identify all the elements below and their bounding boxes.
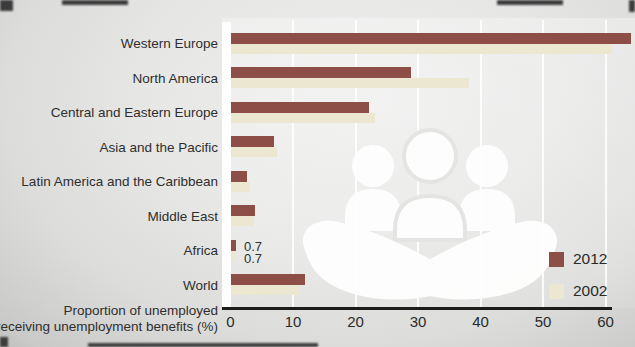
photo-artifact (0, 337, 8, 347)
legend-item-2002: 2002 (549, 282, 607, 300)
photo-artifact (629, 0, 635, 12)
x-tick-label: 60 (584, 313, 628, 330)
category-label: Central and Eastern Europe (0, 104, 218, 122)
x-tick-label: 50 (521, 313, 565, 330)
category-label: Western Europe (0, 35, 218, 53)
legend-label-2002: 2002 (573, 282, 607, 300)
category-label: World (0, 277, 218, 295)
bar-2012 (231, 136, 274, 147)
gridline (355, 20, 357, 307)
chart-page: Western EuropeNorth AmericaCentral and E… (0, 0, 635, 347)
photo-artifact (88, 343, 318, 347)
people-in-hands-watermark (295, 122, 565, 317)
gridline (480, 20, 482, 307)
category-label: Asia and the Pacific (0, 139, 218, 157)
bar-2002 (231, 251, 236, 261)
legend-swatch-2002 (549, 284, 564, 299)
photo-artifact (0, 0, 13, 11)
bar-2012 (231, 205, 255, 216)
x-axis-title-line1: Proportion of unemployed (0, 303, 218, 319)
photo-artifact (497, 0, 563, 5)
gridline (292, 20, 294, 307)
x-tick-label: 20 (334, 313, 378, 330)
bar-2012 (231, 171, 247, 182)
bar-2002 (231, 147, 277, 157)
bar-2002 (231, 113, 375, 123)
data-label-africa-2002: 0.7 (244, 253, 262, 265)
category-label: North America (0, 70, 218, 88)
legend-label-2012: 2012 (573, 250, 607, 268)
bar-2002 (231, 285, 300, 295)
bar-2002 (231, 216, 254, 226)
category-label: Africa (0, 242, 218, 260)
x-axis-title: Proportion of unemployed receiving unemp… (0, 303, 218, 334)
x-tick-label: 30 (396, 313, 440, 330)
category-label: Latin America and the Caribbean (0, 173, 218, 191)
bar-2012 (231, 274, 305, 285)
x-tick-label: 40 (459, 313, 503, 330)
gridline (542, 20, 544, 307)
x-tick-label: 10 (271, 313, 315, 330)
bar-2002 (231, 44, 612, 54)
gridline (417, 20, 419, 307)
legend-item-2012: 2012 (549, 250, 607, 268)
legend-swatch-2012 (549, 252, 564, 267)
bar-2002 (231, 78, 469, 88)
photo-artifact (62, 0, 128, 5)
bar-2012 (231, 67, 411, 78)
y-axis-band (222, 22, 231, 307)
x-axis-title-line2: receiving unemployment benefits (%) (0, 319, 218, 335)
category-label: Middle East (0, 208, 218, 226)
bar-2012 (231, 33, 631, 44)
bar-2012 (231, 102, 369, 113)
legend: 2012 2002 (549, 250, 607, 314)
bar-2002 (231, 182, 250, 192)
bar-2012 (231, 240, 236, 251)
